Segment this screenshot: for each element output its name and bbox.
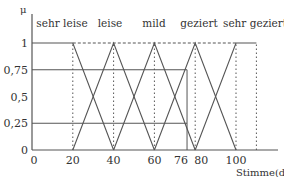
membership-functions <box>32 43 256 150</box>
fuzzy-membership-chart: 00,250,50,75102040607680100Stimme(dB)μse… <box>0 0 284 177</box>
x-tick-label: 80 <box>194 154 208 167</box>
x-axis-label: Stimme(dB) <box>236 167 284 177</box>
y-tick-label: 0 <box>21 144 28 157</box>
x-tick-label: 0 <box>31 154 38 167</box>
x-tick-label: 100 <box>226 154 247 167</box>
series-sehr-geziert <box>195 43 256 150</box>
legend-label-geziert: geziert <box>180 17 218 29</box>
legend-label-sehr-geziert: sehr geziert <box>223 17 284 29</box>
legend-label-leise: leise <box>98 17 123 29</box>
legend-label-mild: mild <box>142 17 166 29</box>
y-tick-label: 0,75 <box>4 64 29 77</box>
x-tick-label: 60 <box>147 154 161 167</box>
reference-lines <box>32 43 256 150</box>
y-tick-label: 0,5 <box>11 91 29 104</box>
labels: 00,250,50,75102040607680100Stimme(dB)μse… <box>4 4 285 177</box>
x-tick-label: 40 <box>107 154 121 167</box>
x-tick-label: 76 <box>174 154 188 167</box>
y-tick-label: 1 <box>21 37 28 50</box>
x-tick-label: 20 <box>66 154 80 167</box>
axes <box>32 14 278 150</box>
legend-label-sehr-leise: sehr leise <box>36 17 87 29</box>
y-axis-label: μ <box>20 4 27 15</box>
y-tick-label: 0,25 <box>4 117 29 130</box>
